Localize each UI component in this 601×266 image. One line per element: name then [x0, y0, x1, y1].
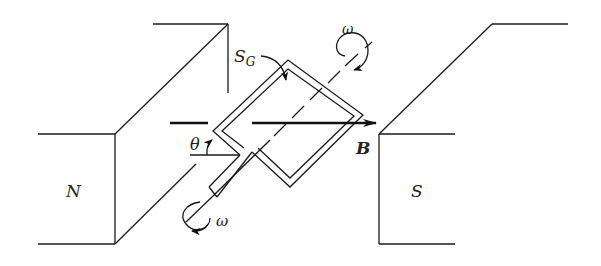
angle-label: θ: [190, 135, 200, 154]
diagram-canvas: N S B SG θ ω: [0, 0, 601, 266]
rotation-arrow-top: [337, 33, 368, 70]
north-magnet: [38, 24, 228, 244]
surface-pointer-arrow: [261, 56, 286, 80]
surface-label: SG: [234, 46, 256, 69]
omega-label-top: ω: [342, 21, 354, 37]
south-magnet: [379, 24, 568, 244]
field-label-b: B: [355, 138, 370, 158]
angle-arc-arrow: [207, 140, 212, 155]
rotation-arrow-bottom: [183, 202, 210, 230]
south-pole-label: S: [411, 181, 423, 201]
surface-label-main: S: [234, 46, 246, 66]
surface-label-subscript: G: [246, 55, 256, 69]
north-pole-label: N: [65, 181, 82, 201]
omega-label-bottom: ω: [216, 212, 228, 230]
